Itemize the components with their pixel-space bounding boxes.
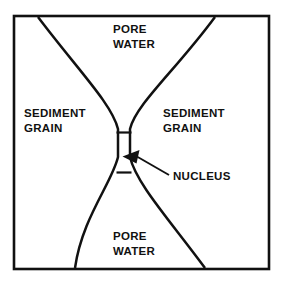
pore-water-top-line1: PORE	[113, 23, 147, 35]
pore-water-top-line2: WATER	[113, 38, 156, 50]
sediment-pore-diagram: PORE WATER SEDIMENT GRAIN SEDIMENT GRAIN…	[0, 0, 283, 288]
figure-root: PORE WATER SEDIMENT GRAIN SEDIMENT GRAIN…	[0, 0, 283, 288]
sediment-grain-left-line1: SEDIMENT	[24, 107, 86, 119]
pore-water-bottom-line1: PORE	[113, 230, 147, 242]
pore-water-bottom-line2: WATER	[113, 245, 156, 257]
sediment-grain-left-line2: GRAIN	[24, 122, 63, 134]
sediment-grain-right-line2: GRAIN	[163, 122, 202, 134]
label-nucleus: NUCLEUS	[173, 170, 231, 182]
nucleus-label-text: NUCLEUS	[173, 170, 231, 182]
sediment-grain-right-line1: SEDIMENT	[163, 107, 225, 119]
